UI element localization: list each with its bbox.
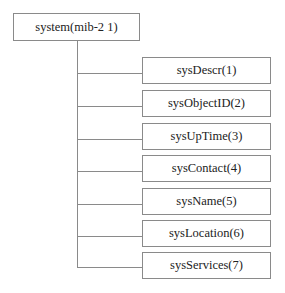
branch-connector-7 bbox=[77, 267, 142, 268]
child-node-label: sysLocation(6) bbox=[169, 226, 244, 241]
child-node-label: sysContact(4) bbox=[172, 161, 241, 176]
child-node-sysdescr: sysDescr(1) bbox=[142, 57, 271, 84]
child-node-label: sysUpTime(3) bbox=[171, 129, 243, 144]
branch-connector-4 bbox=[77, 171, 142, 172]
branch-connector-1 bbox=[77, 73, 142, 74]
child-node-label: sysDescr(1) bbox=[177, 63, 237, 78]
child-node-label: sysObjectID(2) bbox=[168, 96, 245, 111]
child-node-label: sysName(5) bbox=[176, 194, 236, 209]
child-node-sysuptime: sysUpTime(3) bbox=[142, 123, 271, 150]
branch-connector-2 bbox=[77, 106, 142, 107]
root-node-label: system(mib-2 1) bbox=[35, 20, 117, 35]
branch-connector-3 bbox=[77, 139, 142, 140]
branch-connector-6 bbox=[77, 236, 142, 237]
child-node-sysservices: sysServices(7) bbox=[142, 252, 271, 279]
child-node-syscontact: sysContact(4) bbox=[142, 155, 271, 182]
child-node-label: sysServices(7) bbox=[170, 258, 243, 273]
branch-connector-5 bbox=[77, 204, 142, 205]
trunk-connector bbox=[77, 41, 78, 267]
child-node-sysobjectid: sysObjectID(2) bbox=[142, 90, 271, 117]
child-node-syslocation: sysLocation(6) bbox=[142, 220, 271, 247]
root-node-system: system(mib-2 1) bbox=[13, 13, 140, 41]
child-node-sysname: sysName(5) bbox=[142, 188, 271, 215]
